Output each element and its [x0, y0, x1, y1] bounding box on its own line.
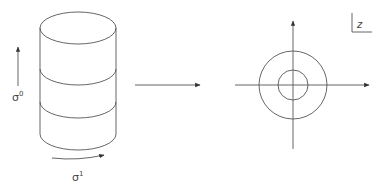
sigma1-label: σ1: [72, 170, 83, 184]
cylinder-top-ellipse: [40, 12, 116, 44]
cylinder-slice-2: [40, 102, 116, 118]
cylinder: [40, 12, 116, 150]
z-label: z: [356, 19, 363, 30]
worldsheet-diagram: σ0 σ1 z: [0, 0, 384, 185]
sigma0-label: σ0: [12, 90, 23, 104]
complex-plane: [235, 21, 369, 149]
cylinder-slice-1: [40, 69, 116, 85]
cylinder-bottom-arc: [40, 134, 116, 150]
sigma1-arrow: [52, 155, 104, 159]
